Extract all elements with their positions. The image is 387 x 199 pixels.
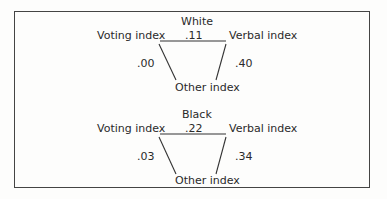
edge-label-voting-other: .00 bbox=[137, 58, 155, 70]
edge-label-verbal-other: .34 bbox=[235, 151, 253, 163]
edge-label-voting-other: .03 bbox=[137, 151, 155, 163]
node-verbal-index: Verbal index bbox=[229, 30, 297, 42]
node-voting-index: Voting index bbox=[97, 30, 165, 42]
edge-label-voting-verbal: .22 bbox=[185, 123, 203, 135]
edge-label-verbal-other: .40 bbox=[235, 58, 253, 70]
node-verbal-index: Verbal index bbox=[229, 123, 297, 135]
edge-label-voting-verbal: .11 bbox=[185, 30, 203, 42]
node-other-index: Other index bbox=[175, 175, 240, 187]
node-other-index: Other index bbox=[175, 82, 240, 94]
diagram-title: Black bbox=[182, 109, 212, 121]
node-voting-index: Voting index bbox=[97, 123, 165, 135]
diagram-title: White bbox=[181, 16, 213, 28]
